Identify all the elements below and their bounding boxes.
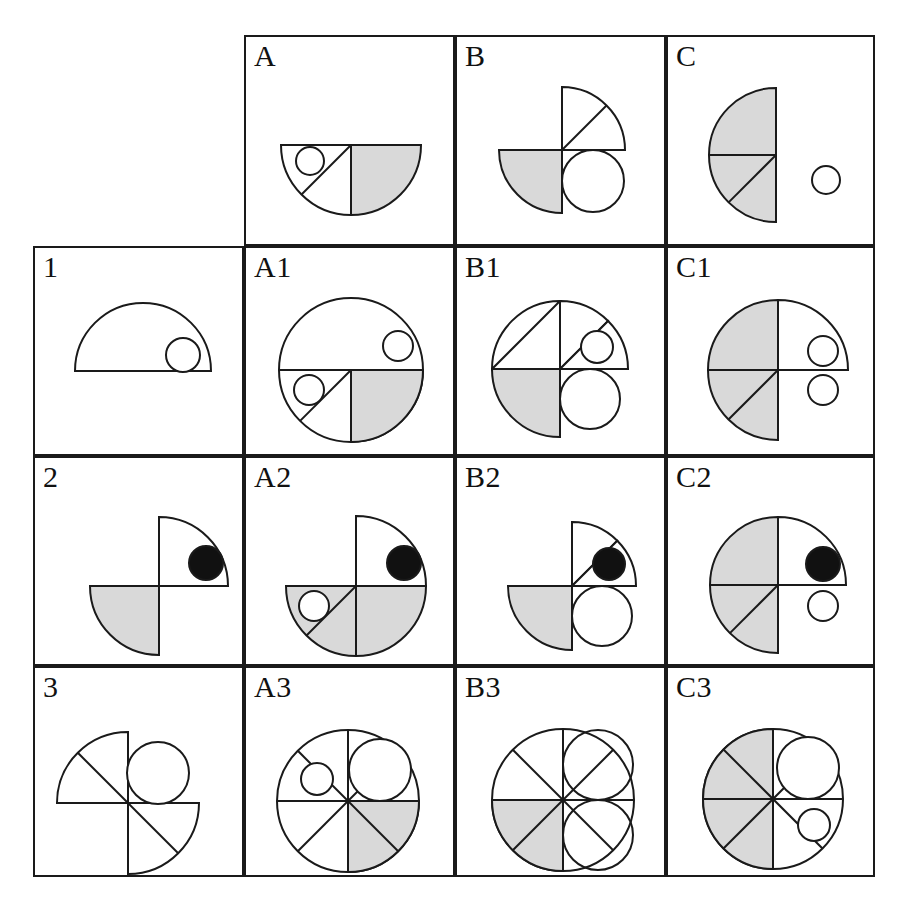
figure-C2 [668,458,873,664]
figure-C3 [668,668,873,875]
cell-col-A[interactable]: A [244,35,455,246]
cell-B2[interactable]: B2 [455,456,666,666]
cell-B1[interactable]: B1 [455,246,666,456]
figure-2 [35,458,242,664]
figure-B3 [457,668,664,875]
figure-C1 [668,248,873,454]
figure-A2 [246,458,453,664]
figure-A [246,37,453,244]
figure-B1 [457,248,664,454]
figure-B2 [457,458,664,664]
figure-C [668,37,873,244]
cell-col-C[interactable]: C [666,35,875,246]
cell-corner [33,35,244,246]
figure-3 [35,668,242,875]
cell-row-1[interactable]: 1 [33,246,244,456]
cell-C3[interactable]: C3 [666,666,875,877]
cell-C1[interactable]: C1 [666,246,875,456]
cell-A2[interactable]: A2 [244,456,455,666]
matrix-grid: A B [33,35,875,877]
cell-C2[interactable]: C2 [666,456,875,666]
cell-A3[interactable]: A3 [244,666,455,877]
figure-B [457,37,664,244]
cell-col-B[interactable]: B [455,35,666,246]
cell-A1[interactable]: A1 [244,246,455,456]
cell-row-2[interactable]: 2 [33,456,244,666]
figure-root: A B [0,0,897,916]
cell-row-3[interactable]: 3 [33,666,244,877]
figure-A1 [246,248,453,454]
figure-A3 [246,668,453,875]
figure-1 [35,248,242,454]
cell-B3[interactable]: B3 [455,666,666,877]
